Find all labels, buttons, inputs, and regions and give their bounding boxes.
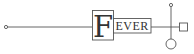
fever-diagram: F EVER xyxy=(0,0,194,54)
initial-letter: F xyxy=(93,10,113,44)
end-square xyxy=(180,23,188,31)
bottom-ring xyxy=(166,39,176,49)
start-dot xyxy=(4,25,7,28)
word-letters: EVER xyxy=(116,19,149,33)
top-dot xyxy=(169,3,172,6)
